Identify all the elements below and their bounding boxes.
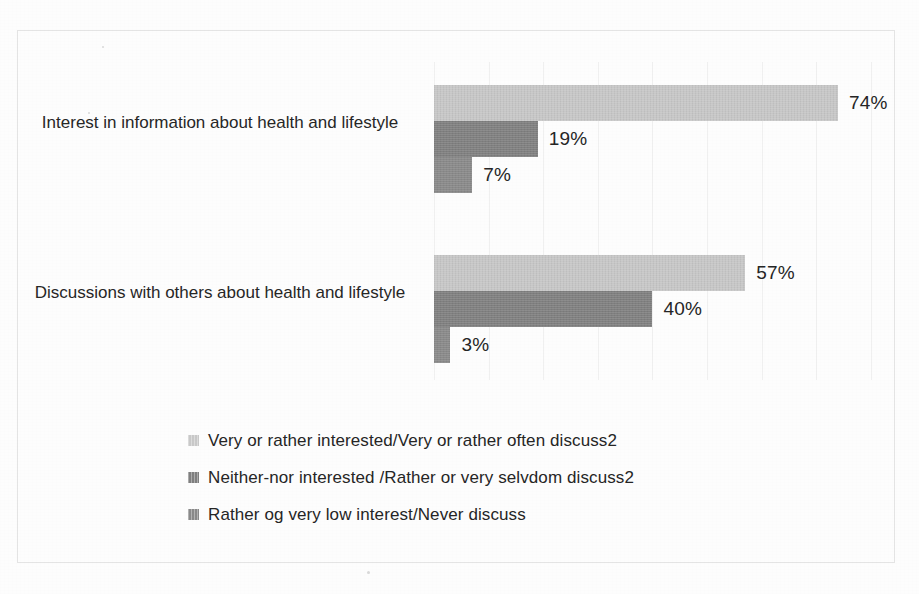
legend-label: Neither-nor interested /Rather or very s… <box>208 468 634 488</box>
bar[interactable] <box>434 291 652 327</box>
legend-item[interactable]: Very or rather interested/Very or rather… <box>188 422 748 459</box>
scanned-page: 74%19%7%57%40%3% Interest in information… <box>0 0 919 594</box>
legend-swatch-icon <box>188 472 199 483</box>
legend-label: Very or rather interested/Very or rather… <box>208 431 617 451</box>
legend-item[interactable]: Neither-nor interested /Rather or very s… <box>188 459 748 496</box>
legend-label: Rather og very low interest/Never discus… <box>208 505 526 525</box>
plot-area: 74%19%7%57%40%3% <box>434 62 886 380</box>
bar[interactable] <box>434 327 450 363</box>
bar[interactable] <box>434 121 538 157</box>
legend-swatch-icon <box>188 509 199 520</box>
bar-value-label: 3% <box>461 334 489 356</box>
scan-speck <box>102 46 104 48</box>
chart-legend: Very or rather interested/Very or rather… <box>188 422 748 533</box>
bar-value-label: 7% <box>483 164 511 186</box>
bar-value-label: 57% <box>756 262 795 284</box>
bar[interactable] <box>434 255 745 291</box>
bar-value-label: 74% <box>849 92 888 114</box>
bar[interactable] <box>434 85 838 121</box>
bar-value-label: 19% <box>549 128 588 150</box>
category-label: Interest in information about health and… <box>20 110 420 135</box>
scan-speck <box>367 571 370 574</box>
legend-item[interactable]: Rather og very low interest/Never discus… <box>188 496 748 533</box>
bar-value-label: 40% <box>663 298 702 320</box>
bar[interactable] <box>434 157 472 193</box>
scan-speck <box>88 112 90 114</box>
category-label: Discussions with others about health and… <box>20 280 420 305</box>
legend-swatch-icon <box>188 435 199 446</box>
